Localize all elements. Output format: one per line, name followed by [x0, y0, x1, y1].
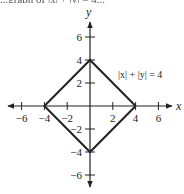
- x-tick-label: 4: [133, 112, 139, 124]
- y-tick-label: −6: [70, 169, 82, 181]
- x-axis-label: x: [175, 99, 182, 113]
- x-tick-label: 2: [110, 112, 116, 124]
- y-tick-label: 4: [77, 54, 83, 66]
- x-tick-label: −4: [39, 112, 51, 124]
- y-tick-label: 6: [77, 31, 83, 43]
- equation-label: |x| + |y| = 4: [118, 69, 162, 80]
- x-tick-label: 6: [156, 112, 162, 124]
- x-tick-label: −6: [16, 112, 28, 124]
- y-tick-label: −4: [70, 146, 82, 158]
- y-axis-label: y: [85, 5, 92, 19]
- y-tick-label: 2: [77, 77, 83, 89]
- graph-figure: x y −6−4−2246642−2−4−6 |x| + |y| = 4: [0, 0, 184, 194]
